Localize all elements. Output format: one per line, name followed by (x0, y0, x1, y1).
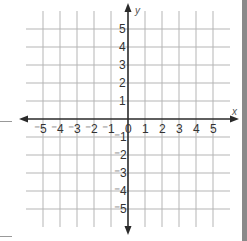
left-margin-mark-bottom (0, 236, 12, 237)
y-tick-label: 4 (119, 41, 126, 53)
y-tick-label: ⁻4 (114, 185, 127, 197)
y-tick-label: 2 (119, 77, 126, 89)
left-margin-mark-top (0, 121, 12, 122)
y-tick-label: 1 (119, 95, 126, 107)
x-axis-left-arrow-icon (19, 116, 28, 123)
y-tick-label: ⁻2 (114, 149, 127, 161)
x-tick-label: 5 (210, 123, 217, 135)
x-tick-label: 4 (193, 123, 200, 135)
y-axis-down-arrow-icon (125, 226, 132, 235)
y-tick-label: 5 (119, 23, 126, 35)
x-tick-label: ⁻5 (34, 123, 47, 135)
x-axis-label: x (232, 106, 237, 117)
x-tick-label: ⁻2 (85, 123, 98, 135)
x-tick-label: 1 (142, 123, 149, 135)
y-axis-up-arrow-icon (125, 3, 132, 12)
x-tick-label: 3 (176, 123, 183, 135)
y-tick-label: ⁻5 (114, 203, 127, 215)
x-tick-label: 2 (159, 123, 166, 135)
x-tick-label: ⁻1 (102, 123, 115, 135)
y-tick-label: 3 (119, 59, 126, 71)
x-tick-label: ⁻4 (51, 123, 64, 135)
y-tick-label: ⁻3 (114, 167, 127, 179)
y-tick-label: ⁻1 (114, 131, 127, 143)
y-axis-label: y (135, 5, 140, 16)
page-edge-bar (242, 0, 247, 241)
x-tick-label: ⁻3 (68, 123, 81, 135)
coordinate-plane: x y ⁻5⁻4⁻3⁻2⁻101234554321⁻1⁻2⁻3⁻4⁻5 (0, 0, 247, 241)
